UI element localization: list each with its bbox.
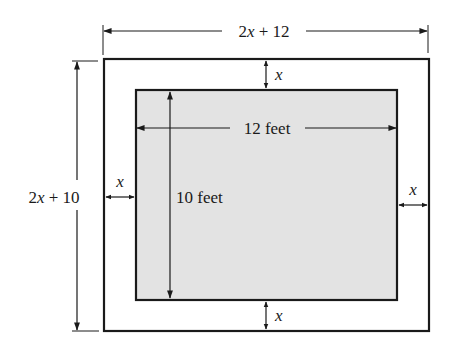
outer-height-dimension: 2x + 10 — [28, 61, 99, 331]
inner-height-label: 10 feet — [176, 188, 223, 207]
bottom-border-label: x — [274, 306, 283, 325]
right-border-label: x — [408, 180, 417, 199]
inner-width-label: 12 feet — [244, 119, 291, 138]
outer-width-dimension: 2x + 12 — [103, 22, 428, 55]
left-border-label: x — [115, 172, 124, 191]
outer-width-label: 2x + 12 — [238, 22, 289, 41]
top-border-label: x — [274, 65, 283, 84]
border-diagram: 2x + 12 2x + 10 12 feet 10 feet x x x x — [0, 0, 454, 350]
outer-height-label: 2x + 10 — [28, 188, 79, 207]
